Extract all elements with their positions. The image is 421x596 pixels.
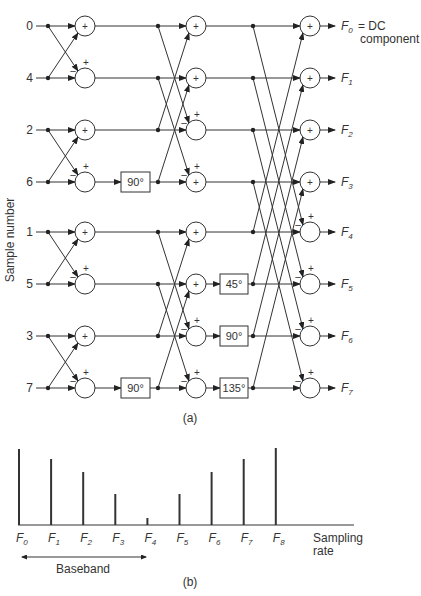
svg-text:–: – (70, 169, 76, 180)
adder-node (75, 172, 95, 192)
svg-text:–: – (181, 323, 187, 334)
adder-node (186, 326, 206, 346)
baseband-label: Baseband (56, 562, 110, 576)
svg-text:–: – (70, 271, 76, 282)
svg-text:+: + (194, 367, 200, 378)
svg-text:–: – (295, 375, 301, 386)
svg-text:–: – (70, 65, 76, 76)
spectrum-label-F5: F5 (177, 531, 189, 547)
svg-text:–: – (181, 169, 187, 180)
svg-text:+: + (83, 161, 89, 172)
spectrum-label-F1: F1 (48, 531, 60, 547)
svg-text:–: – (181, 375, 187, 386)
svg-text:–: – (70, 375, 76, 386)
svg-text:+: + (307, 177, 313, 188)
adder-node (186, 378, 206, 398)
svg-text:–: – (295, 219, 301, 230)
caption-b: (b) (183, 575, 198, 589)
svg-text:+: + (194, 315, 200, 326)
svg-text:+: + (308, 315, 314, 326)
output-label-F0: F0 (341, 19, 353, 35)
output-label-F5: F5 (341, 277, 353, 293)
svg-text:+: + (82, 21, 88, 32)
input-label-2: 2 (26, 123, 33, 137)
input-label-0: 0 (26, 19, 33, 33)
svg-text:+: + (307, 21, 313, 32)
spectrum-chart: F0F1F2F3F4F5F6F7F8 (16, 448, 354, 547)
svg-text:+: + (82, 125, 88, 136)
svg-text:+: + (83, 367, 89, 378)
output-label-F7: F7 (341, 381, 353, 397)
svg-text:+: + (193, 21, 199, 32)
svg-text:+: + (193, 73, 199, 84)
twiddle-label: 90° (127, 176, 144, 188)
output-label-F6: F6 (341, 329, 353, 345)
output-label-F2: F2 (341, 123, 353, 139)
svg-text:+: + (194, 109, 200, 120)
input-label-3: 3 (26, 329, 33, 343)
spectrum-label-F7: F7 (241, 531, 253, 547)
svg-text:–: – (295, 271, 301, 282)
spectrum-label-F8: F8 (273, 531, 285, 547)
output-label-F1: F1 (341, 71, 353, 87)
svg-text:+: + (194, 161, 200, 172)
input-label-7: 7 (26, 381, 33, 395)
fft-figure: Sample number 0426153790°90°45°90°135°++… (0, 0, 421, 596)
adder-node (300, 378, 320, 398)
output-label-F3: F3 (341, 175, 353, 191)
spectrum-label-F2: F2 (80, 531, 92, 547)
svg-text:+: + (83, 263, 89, 274)
svg-text:+: + (193, 177, 199, 188)
adder-node (300, 326, 320, 346)
sampling-label-line1: Sampling (313, 531, 363, 545)
dc-note-line1: = DC (358, 19, 386, 33)
input-label-6: 6 (26, 175, 33, 189)
svg-text:+: + (82, 331, 88, 342)
svg-text:+: + (82, 227, 88, 238)
caption-a: (a) (183, 411, 198, 425)
svg-text:–: – (181, 117, 187, 128)
adder-node (186, 120, 206, 140)
y-axis-label: Sample number (3, 198, 17, 283)
svg-text:+: + (307, 125, 313, 136)
spectrum-label-F0: F0 (16, 531, 28, 547)
input-label-4: 4 (26, 71, 33, 85)
adder-node (75, 378, 95, 398)
input-label-1: 1 (26, 225, 33, 239)
dc-note-line2: component (360, 32, 420, 46)
sampling-label-line2: rate (313, 544, 334, 558)
adder-node (75, 68, 95, 88)
svg-text:–: – (295, 323, 301, 334)
fft-butterfly-diagram: Sample number 0426153790°90°45°90°135°++… (0, 0, 421, 596)
spectrum-label-F6: F6 (209, 531, 221, 547)
svg-text:+: + (83, 57, 89, 68)
adder-node (300, 274, 320, 294)
spectrum-label-F3: F3 (112, 531, 124, 547)
twiddle-label: 90° (226, 330, 243, 342)
adder-node (300, 222, 320, 242)
svg-text:+: + (193, 279, 199, 290)
input-label-5: 5 (26, 277, 33, 291)
svg-text:+: + (307, 73, 313, 84)
svg-text:+: + (308, 367, 314, 378)
svg-text:+: + (308, 263, 314, 274)
svg-text:+: + (308, 211, 314, 222)
twiddle-label: 45° (226, 278, 243, 290)
spectrum-label-F4: F4 (144, 531, 156, 547)
twiddle-label: 135° (223, 382, 246, 394)
output-label-F4: F4 (341, 225, 353, 241)
twiddle-label: 90° (127, 382, 144, 394)
adder-node (75, 274, 95, 294)
svg-text:+: + (193, 227, 199, 238)
